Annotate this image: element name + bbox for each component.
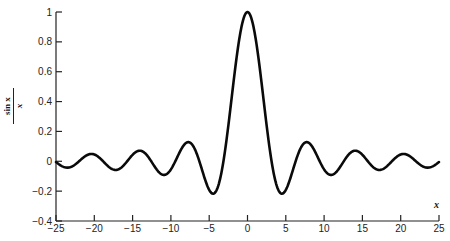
y-tick-label: −0.2 — [32, 186, 52, 197]
chart-axes — [56, 12, 439, 221]
y-axis-label: sin x x — [3, 88, 19, 124]
x-tick-label: 20 — [395, 223, 407, 234]
sinc-curve — [56, 12, 439, 194]
y-axis-label-denominator: x — [14, 88, 24, 124]
y-tick-label: 0.8 — [38, 36, 52, 47]
y-tick-label: 1 — [46, 7, 52, 18]
sinc-chart: 10.80.60.40.20−0.2−0.4−25−20−15−10−50510… — [0, 0, 450, 241]
x-tick-label: −25 — [48, 223, 65, 234]
y-tick-label: 0.4 — [38, 96, 52, 107]
x-tick-label: −5 — [203, 223, 215, 234]
y-axis-label-numerator: sin x — [3, 88, 14, 124]
x-tick-label: −15 — [124, 223, 141, 234]
x-tick-label: −20 — [86, 223, 103, 234]
x-tick-label: 25 — [433, 223, 445, 234]
x-tick-label: 0 — [245, 223, 251, 234]
x-tick-label: 5 — [283, 223, 289, 234]
y-tick-label: 0.6 — [38, 66, 52, 77]
x-tick-label: −10 — [162, 223, 179, 234]
x-axis-label: x — [434, 199, 439, 210]
y-tick-label: 0 — [46, 156, 52, 167]
y-tick-label: 0.2 — [38, 126, 52, 137]
x-tick-label: 10 — [319, 223, 331, 234]
x-tick-label: 15 — [357, 223, 369, 234]
